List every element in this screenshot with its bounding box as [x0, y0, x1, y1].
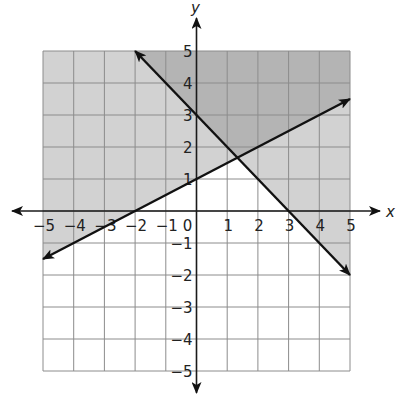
- x-tick-label: −5: [33, 217, 55, 235]
- x-axis-label: x: [385, 203, 395, 221]
- y-tick-label: −2: [170, 267, 192, 285]
- y-tick-label: 4: [183, 75, 193, 93]
- y-tick-label: −5: [170, 363, 192, 381]
- x-tick-label: 5: [346, 217, 356, 235]
- x-tick-label: 0: [183, 217, 193, 235]
- x-tick-label: −2: [125, 217, 147, 235]
- y-tick-label: −4: [170, 331, 192, 349]
- y-tick-label: −3: [170, 299, 192, 317]
- x-tick-label: 2: [254, 217, 264, 235]
- coordinate-plane: −5−4−3−2−1012345−5−4−3−2−112345 x y: [0, 0, 397, 394]
- y-tick-label: −1: [170, 235, 192, 253]
- x-tick-label: −1: [156, 217, 178, 235]
- x-tick-label: 3: [285, 217, 295, 235]
- y-tick-label: 5: [183, 43, 193, 61]
- y-axis-label: y: [190, 0, 201, 17]
- x-tick-label: 4: [316, 217, 326, 235]
- x-tick-label: −4: [64, 217, 86, 235]
- x-tick-label: 1: [223, 217, 233, 235]
- y-tick-label: 2: [183, 139, 193, 157]
